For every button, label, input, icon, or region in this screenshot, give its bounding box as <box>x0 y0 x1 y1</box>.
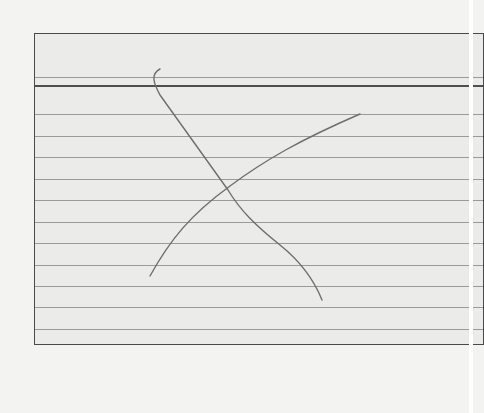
photo-edge <box>469 0 473 413</box>
pencil-stroke-descending <box>154 69 322 300</box>
pencil-stroke-ascending <box>150 114 360 276</box>
